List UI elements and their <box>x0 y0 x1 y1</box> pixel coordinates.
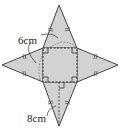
pyramid-net-diagram: 6cm 8cm <box>0 0 127 135</box>
left-triangle-face <box>2 48 43 82</box>
top-triangle-face <box>43 5 77 48</box>
slant-height-label: 8cm <box>27 112 46 124</box>
base-edge-label: 6cm <box>18 34 37 46</box>
right-triangle-face <box>77 48 118 82</box>
